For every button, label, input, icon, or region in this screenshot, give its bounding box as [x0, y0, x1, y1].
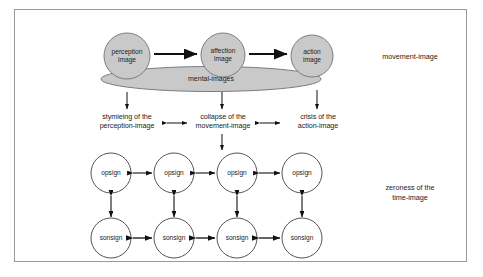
- diagram-canvas: [15, 10, 468, 263]
- stymieing-label: stymieing of the perception-image: [79, 113, 175, 130]
- sonsign-node-4: [282, 218, 322, 258]
- diagram-frame: perception image affection image action …: [14, 9, 467, 262]
- sonsign-node-2: [154, 218, 194, 258]
- sonsign-node-3: [217, 218, 257, 258]
- movement-image-side-label: movement-image: [355, 52, 465, 62]
- opsign-node-1: [91, 153, 131, 193]
- diagram-stage: perception image affection image action …: [15, 10, 468, 263]
- opsign-node-2: [154, 153, 194, 193]
- affection-image-node: [201, 33, 245, 77]
- perception-image-node: [104, 33, 150, 79]
- opsign-node-4: [282, 153, 322, 193]
- opsign-node-3: [217, 153, 257, 193]
- action-image-node: [291, 35, 333, 77]
- zeroness-time-image-side-label: zeroness of the time-image: [355, 183, 465, 202]
- sonsign-node-1: [91, 218, 131, 258]
- crisis-label: crisis of the action-image: [273, 113, 363, 130]
- collapse-label: collapse of the movement-image: [175, 113, 271, 130]
